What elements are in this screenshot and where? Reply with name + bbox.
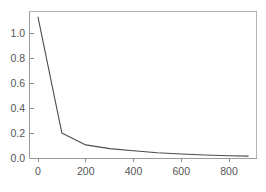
x-tick-label: 0 <box>35 165 41 177</box>
y-tick-label: 0.0 <box>10 152 25 164</box>
x-tick-label: 200 <box>77 165 95 177</box>
y-tick-label: 0.4 <box>10 102 25 114</box>
line-chart: 1.0 0.8 0.6 0.4 0.2 0.0 0 200 400 600 80… <box>0 0 266 192</box>
x-tick-label: 600 <box>172 165 190 177</box>
y-tick-label: 0.6 <box>10 77 25 89</box>
y-tick-label: 1.0 <box>10 27 25 39</box>
x-tick-label: 400 <box>125 165 143 177</box>
y-tick-label: 0.8 <box>10 52 25 64</box>
x-tick-label: 800 <box>220 165 238 177</box>
y-tick-label: 0.2 <box>10 127 25 139</box>
chart-figure: 1.0 0.8 0.6 0.4 0.2 0.0 0 200 400 600 80… <box>0 0 266 192</box>
